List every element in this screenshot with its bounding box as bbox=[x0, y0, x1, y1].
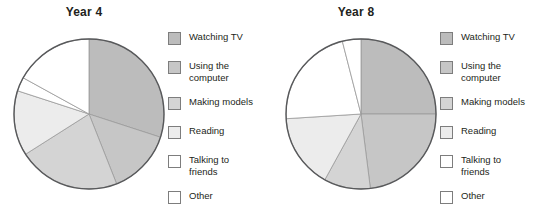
legend-swatch-reading bbox=[168, 126, 181, 139]
pie-slice bbox=[361, 114, 436, 188]
legend-label-talking-to-friends: Talking to friends bbox=[461, 154, 501, 177]
legend-item-talking-to-friends: Talking to friends bbox=[440, 154, 540, 183]
chart-title-year8: Year 8 bbox=[272, 5, 440, 19]
legend-swatch-talking-to-friends bbox=[168, 155, 181, 168]
legend-swatch-watching-tv bbox=[168, 32, 181, 45]
legend-item-reading: Reading bbox=[168, 125, 268, 147]
pie-svg-year4 bbox=[12, 37, 166, 191]
pie-slice bbox=[361, 39, 436, 114]
legend-label-other: Other bbox=[461, 190, 485, 202]
legend-item-watching-tv: Watching TV bbox=[168, 31, 268, 53]
legend-year4: Watching TV Using the computer Making mo… bbox=[168, 0, 268, 214]
legend-item-using-the-computer: Using the computer bbox=[440, 60, 540, 89]
legend-label-reading: Reading bbox=[189, 125, 224, 137]
pie-chart-year4 bbox=[12, 37, 166, 191]
legend-item-using-the-computer: Using the computer bbox=[168, 60, 268, 89]
legend-swatch-making-models bbox=[440, 97, 453, 110]
chart-column-year8: Year 8 bbox=[272, 0, 440, 214]
legend-label-other: Other bbox=[189, 190, 213, 202]
legend-item-watching-tv: Watching TV bbox=[440, 31, 540, 53]
legend-item-making-models: Making models bbox=[440, 96, 540, 118]
legend-label-making-models: Making models bbox=[189, 96, 253, 108]
legend-label-watching-tv: Watching TV bbox=[461, 31, 515, 43]
legend-year8: Watching TV Using the computer Making mo… bbox=[440, 0, 540, 214]
pie-chart-year8 bbox=[284, 37, 438, 191]
legend-swatch-other bbox=[440, 191, 453, 204]
legend-label-making-models: Making models bbox=[461, 96, 525, 108]
legend-item-making-models: Making models bbox=[168, 96, 268, 118]
pie-svg-year8 bbox=[284, 37, 438, 191]
pie-chart-figure: Year 4 Watching TV Using the computer Ma… bbox=[0, 0, 543, 214]
chart-title-year4: Year 4 bbox=[0, 5, 168, 19]
legend-label-reading: Reading bbox=[461, 125, 496, 137]
chart-panel-year8: Year 8 Watching TV Using the computer Ma… bbox=[272, 0, 543, 214]
legend-label-watching-tv: Watching TV bbox=[189, 31, 243, 43]
chart-column-year4: Year 4 bbox=[0, 0, 168, 214]
legend-swatch-using-the-computer bbox=[440, 61, 453, 74]
legend-swatch-reading bbox=[440, 126, 453, 139]
legend-item-other: Other bbox=[168, 190, 268, 212]
legend-swatch-making-models bbox=[168, 97, 181, 110]
legend-swatch-other bbox=[168, 191, 181, 204]
legend-label-using-the-computer: Using the computer bbox=[189, 60, 229, 83]
legend-label-talking-to-friends: Talking to friends bbox=[189, 154, 229, 177]
legend-label-using-the-computer: Using the computer bbox=[461, 60, 501, 83]
legend-item-talking-to-friends: Talking to friends bbox=[168, 154, 268, 183]
legend-swatch-watching-tv bbox=[440, 32, 453, 45]
legend-swatch-talking-to-friends bbox=[440, 155, 453, 168]
legend-swatch-using-the-computer bbox=[168, 61, 181, 74]
chart-panel-year4: Year 4 Watching TV Using the computer Ma… bbox=[0, 0, 268, 214]
legend-item-other: Other bbox=[440, 190, 540, 212]
legend-item-reading: Reading bbox=[440, 125, 540, 147]
